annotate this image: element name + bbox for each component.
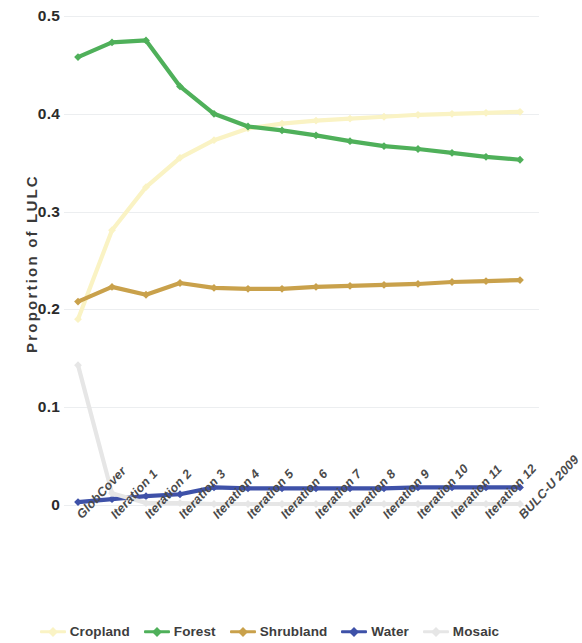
- series-canvas: [60, 0, 539, 520]
- data-point-marker: [414, 280, 422, 288]
- legend-label: Water: [371, 624, 409, 639]
- data-point-marker: [278, 285, 286, 293]
- y-tick-0.3: 0.3: [16, 203, 60, 221]
- y-axis-tick-labels: 00.10.20.30.40.5: [0, 0, 60, 643]
- legend-swatch-icon: [144, 626, 170, 637]
- data-point-marker: [346, 115, 354, 123]
- series-line: [78, 40, 520, 159]
- data-point-marker: [414, 145, 422, 153]
- data-point-marker: [482, 109, 490, 117]
- data-point-marker: [312, 283, 320, 291]
- y-tick-0: 0: [16, 496, 60, 514]
- data-point-marker: [516, 276, 524, 284]
- y-tick-0.2: 0.2: [16, 300, 60, 318]
- legend-item-shrubland[interactable]: Shrubland: [230, 624, 328, 639]
- y-tick-0.4: 0.4: [16, 105, 60, 123]
- x-axis-tick-labels: GlobCoverIteration 1Iteration 2Iteration…: [60, 512, 539, 622]
- legend-item-mosaic[interactable]: Mosaic: [423, 624, 499, 639]
- plot-area: [60, 0, 539, 520]
- series-cropland: [74, 108, 524, 323]
- data-point-marker: [346, 282, 354, 290]
- series-forest: [74, 37, 524, 164]
- data-point-marker: [380, 113, 388, 121]
- legend-swatch-icon: [40, 626, 66, 637]
- legend-item-water[interactable]: Water: [341, 624, 409, 639]
- data-point-marker: [516, 108, 524, 116]
- data-point-marker: [380, 142, 388, 150]
- data-point-marker: [244, 285, 252, 293]
- legend-swatch-icon: [423, 626, 449, 637]
- series-shrubland: [74, 276, 524, 305]
- data-point-marker: [414, 111, 422, 119]
- legend-item-forest[interactable]: Forest: [144, 624, 216, 639]
- legend-label: Cropland: [70, 624, 130, 639]
- data-point-marker: [346, 137, 354, 145]
- data-point-marker: [278, 120, 286, 128]
- data-point-marker: [448, 278, 456, 286]
- data-point-marker: [278, 127, 286, 135]
- data-point-marker: [482, 153, 490, 161]
- data-point-marker: [482, 277, 490, 285]
- legend-swatch-icon: [230, 626, 256, 637]
- y-tick-0.5: 0.5: [16, 7, 60, 25]
- legend-label: Mosaic: [453, 624, 499, 639]
- data-point-marker: [516, 156, 524, 164]
- legend-label: Shrubland: [260, 624, 328, 639]
- data-point-marker: [380, 281, 388, 289]
- legend-swatch-icon: [341, 626, 367, 637]
- data-point-marker: [312, 117, 320, 125]
- data-point-marker: [448, 110, 456, 118]
- y-tick-0.1: 0.1: [16, 398, 60, 416]
- data-point-marker: [448, 149, 456, 157]
- chart-legend: CroplandForestShrublandWaterMosaic: [0, 624, 539, 639]
- data-point-marker: [312, 131, 320, 139]
- legend-label: Forest: [174, 624, 216, 639]
- legend-item-cropland[interactable]: Cropland: [40, 624, 130, 639]
- data-point-marker: [210, 284, 218, 292]
